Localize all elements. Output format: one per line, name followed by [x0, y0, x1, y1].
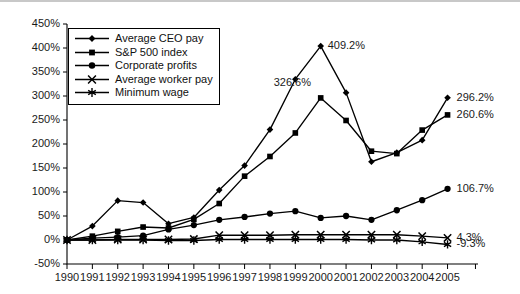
data-point-marker	[292, 208, 298, 214]
data-point-marker	[293, 130, 299, 136]
data-point-marker	[343, 89, 350, 96]
legend-item-0[interactable]: Average CEO pay	[73, 32, 213, 46]
y-axis-tick-label: 350%	[16, 65, 60, 77]
series-line-2	[67, 189, 448, 240]
y-axis-tick-label: 250%	[16, 113, 60, 125]
series-end-label: -9.3%	[457, 237, 486, 249]
data-point-marker	[444, 95, 451, 102]
series-end-label: 106.7%	[457, 182, 494, 194]
data-point-marker	[318, 95, 324, 101]
series-end-label: 296.2%	[457, 91, 494, 103]
chart-legend: Average CEO payS&P 500 indexCorporate pr…	[68, 28, 220, 105]
data-point-marker	[343, 118, 349, 124]
y-axis-tick-label: 100%	[16, 185, 60, 197]
data-point-marker	[267, 154, 273, 160]
y-axis-tick-label: 300%	[16, 89, 60, 101]
data-point-marker	[241, 214, 247, 220]
legend-label: Average CEO pay	[111, 32, 203, 45]
y-axis-tick-label: 0%	[16, 233, 60, 245]
y-axis-tick-label: 450%	[16, 17, 60, 29]
y-axis-tick-label: 200%	[16, 137, 60, 149]
y-axis-tick-label: 50%	[16, 209, 60, 221]
data-point-marker	[419, 137, 426, 144]
legend-marker-square-icon	[73, 46, 111, 59]
data-point-marker	[419, 197, 425, 203]
legend-marker-x-cross-icon	[73, 73, 111, 86]
legend-label: Average worker pay	[111, 73, 213, 86]
legend-marker-diamond-icon	[73, 32, 111, 45]
series-end-label: 260.6%	[457, 108, 494, 120]
data-point-marker	[343, 213, 349, 219]
y-axis-tick-label: -50%	[16, 257, 60, 269]
data-point-marker	[115, 229, 121, 235]
data-point-marker	[445, 112, 451, 118]
data-point-marker	[394, 207, 400, 213]
series-annotation: 409.2%	[328, 39, 365, 51]
legend-label: S&P 500 index	[111, 46, 188, 59]
data-point-marker	[444, 186, 450, 192]
data-point-marker	[216, 217, 222, 223]
legend-item-2[interactable]: Corporate profits	[73, 59, 213, 73]
y-axis-tick-label: 150%	[16, 161, 60, 173]
legend-marker-circle-icon	[73, 59, 111, 72]
series-line-1	[67, 98, 448, 240]
data-point-marker	[140, 224, 146, 230]
data-point-marker	[191, 217, 197, 223]
legend-item-3[interactable]: Average worker pay	[73, 73, 213, 87]
data-point-marker	[368, 217, 374, 223]
legend-marker-asterisk-icon	[73, 86, 111, 99]
series-annotation: 326.6%	[274, 76, 311, 88]
data-point-marker	[369, 148, 375, 154]
data-point-marker	[419, 127, 425, 133]
data-point-marker	[394, 151, 400, 157]
legend-item-1[interactable]: S&P 500 index	[73, 46, 213, 60]
chart-container: Average CEO payS&P 500 indexCorporate pr…	[0, 0, 520, 294]
data-point-marker	[267, 210, 273, 216]
data-point-marker	[165, 226, 171, 232]
series-line-4	[67, 240, 448, 245]
legend-item-4[interactable]: Minimum wage	[73, 86, 213, 100]
legend-label: Minimum wage	[111, 86, 189, 99]
y-axis-tick-label: 400%	[16, 41, 60, 53]
data-point-marker	[318, 215, 324, 221]
data-point-marker	[242, 173, 248, 179]
data-point-marker	[368, 158, 375, 165]
legend-label: Corporate profits	[111, 59, 197, 72]
data-point-marker	[191, 222, 197, 228]
x-axis-tick-label: 2005	[431, 271, 465, 283]
data-point-marker	[216, 201, 222, 207]
